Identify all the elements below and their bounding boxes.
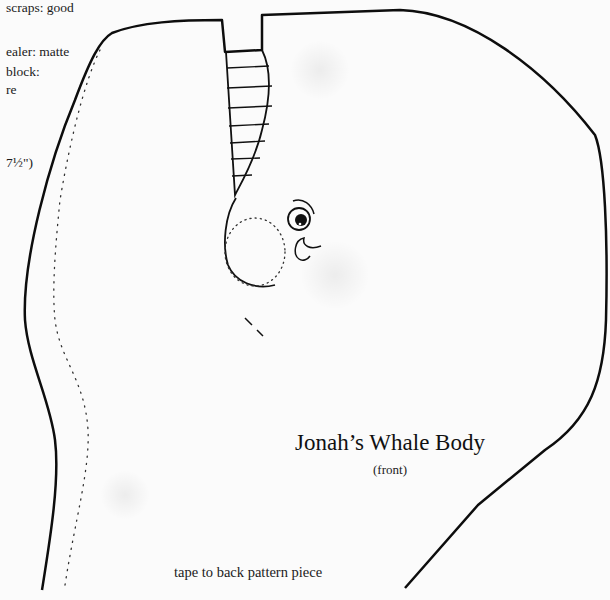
- pattern-title: Jonah’s Whale Body: [250, 430, 530, 456]
- eye-icon: [288, 200, 314, 230]
- head-outline: [225, 198, 275, 286]
- curl-mark: [295, 238, 321, 260]
- mouth-stripes: [227, 66, 272, 176]
- mouth-outline: [226, 50, 269, 195]
- tape-instruction: tape to back pattern piece: [174, 564, 322, 581]
- whale-pattern-drawing: [0, 0, 610, 600]
- body-outline: [25, 10, 607, 590]
- placement-dash: [245, 318, 252, 325]
- cheek-dotted: [225, 218, 285, 286]
- seam-dotted-line: [54, 50, 100, 585]
- pattern-subtitle: (front): [250, 462, 530, 478]
- placement-dash: [257, 330, 263, 336]
